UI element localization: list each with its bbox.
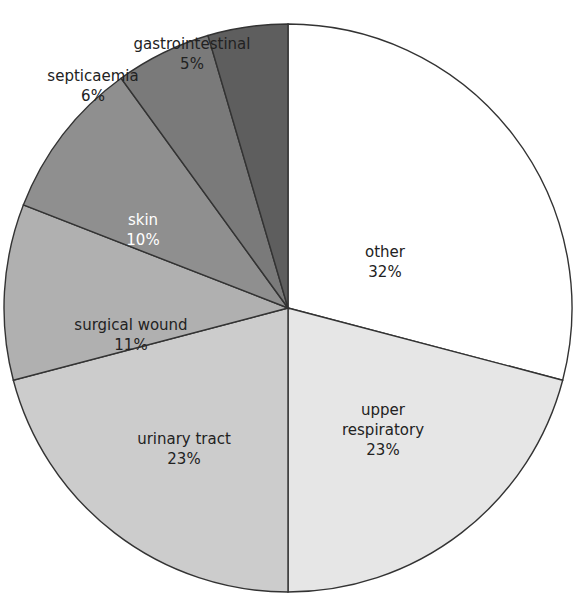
pie-slices: [4, 24, 572, 592]
pie-chart: other32%upperrespiratory23%urinary tract…: [0, 0, 574, 611]
